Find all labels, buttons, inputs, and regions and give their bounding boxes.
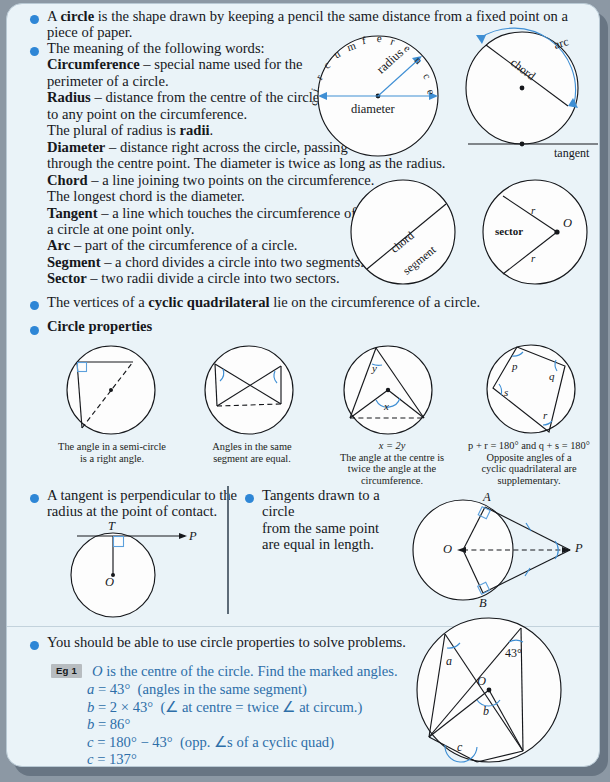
label-B: B <box>479 596 487 611</box>
reason: (angles in the same segment) <box>138 681 307 697</box>
paragraph-tangents-equal: Tangents drawn to a circle from the same… <box>262 487 412 553</box>
caption-line: circumference. <box>361 475 423 486</box>
label-P: P <box>189 529 197 544</box>
label-sector: sector <box>495 225 523 237</box>
text-fragment: – a chord divides a circle into two segm… <box>101 254 364 270</box>
label-O: O <box>443 542 452 557</box>
label-r: r <box>531 204 535 216</box>
text-fragment: radius at the point of contact. <box>47 503 217 519</box>
label-s: s <box>504 386 508 398</box>
diagram-angles-same-segment <box>193 344 305 436</box>
solution-line: c = 137° <box>87 751 431 767</box>
bullet-point-6 <box>245 494 254 503</box>
bullet-point-1 <box>30 15 39 24</box>
label-O: O <box>105 575 114 590</box>
term-diameter: Diameter <box>47 139 105 155</box>
example-badge: Eg 1 <box>51 664 82 678</box>
solution-line: c = 180° − 43° (opp. ∠s of a cyclic quad… <box>87 734 431 751</box>
section-divider <box>227 486 229 614</box>
text-fragment: from the same point <box>262 520 379 536</box>
term-tangent: Tangent <box>47 205 98 221</box>
caption-line: Angles in the same <box>212 441 291 452</box>
example-prompt: is the centre of the circle. Find the ma… <box>103 663 398 679</box>
label-O: O <box>92 663 103 679</box>
bullet-point-3 <box>30 301 39 310</box>
term-circle: circle <box>60 8 94 24</box>
term-chord: Chord <box>47 172 88 188</box>
text-fragment: to any point on the circumference. <box>47 106 247 122</box>
label-y: y <box>372 362 377 374</box>
label-q: q <box>549 370 555 382</box>
reason: (∠ at centre = twice ∠ at circum.) <box>160 699 362 715</box>
caption-line: is a right angle. <box>80 453 144 464</box>
diagram-chord-arc-tangent: arc chord tangent <box>462 18 600 170</box>
text-fragment: . <box>210 122 214 138</box>
caption-line: Opposite angles of a <box>486 452 571 463</box>
equation: = 2 × 43° <box>94 699 153 715</box>
text-fragment: The plural of radius is <box>47 122 180 138</box>
term-radius: Radius <box>47 89 91 105</box>
diagram-angle-at-centre: y x <box>332 344 444 436</box>
text-fragment: a circle at one point only. <box>47 221 194 237</box>
equation: = 137° <box>93 751 136 767</box>
term-segment: Segment <box>47 254 101 270</box>
text-fragment: piece of paper. <box>47 24 133 40</box>
label-A: A <box>483 490 491 505</box>
label-a: a <box>446 654 452 669</box>
text-fragment: A <box>47 8 60 24</box>
label-x: x <box>384 400 389 412</box>
equation: = 86° <box>94 716 130 732</box>
diagram-circumference-radius-diameter: diameter radius c i r c u m f e r e n c … <box>296 18 461 166</box>
solution-line: b = 86° <box>87 716 431 733</box>
label-O: O <box>563 216 572 231</box>
text-fragment: – a line which touches the circumference… <box>98 205 357 221</box>
paragraph-use-properties: You should be able to use circle propert… <box>47 634 447 650</box>
formula-x-equals-2y: x = 2y <box>379 440 406 451</box>
text-fragment: perimeter of a circle. <box>47 73 169 89</box>
equation: = 43° <box>94 681 130 697</box>
text-fragment: are equal in length. <box>262 536 374 552</box>
diagram-worked-example: a 43° O b c <box>405 612 580 767</box>
caption-line: twice the angle at the <box>348 463 436 474</box>
label-O: O <box>477 674 486 689</box>
label-43-degrees: 43° <box>505 646 522 661</box>
diagram-angle-in-semicircle <box>55 344 167 436</box>
term-radii: radii <box>180 122 210 138</box>
example-solution-lines: a = 43° (angles in the same segment) b =… <box>87 681 431 767</box>
text-fragment: Tangents drawn to a circle <box>262 487 380 519</box>
lesson-panel: A circle is the shape drawn by keeping a… <box>6 3 600 767</box>
caption-cyclic-quadrilateral: p + r = 180° and q + s = 180° Opposite a… <box>439 440 600 486</box>
heading-circle-properties: Circle properties <box>47 318 152 334</box>
caption-line: The angle in a semi-circle <box>58 441 166 452</box>
label-P: P <box>575 541 583 556</box>
worked-example: Eg 1 O is the centre of the circle. Find… <box>51 662 431 767</box>
label-b: b <box>483 704 489 719</box>
bullet-point-5 <box>30 494 39 503</box>
diagram-chord-segment: chord segment <box>347 174 469 292</box>
caption-line: supplementary. <box>497 475 560 486</box>
paragraph-tangent-perpendicular: A tangent is perpendicular to the radius… <box>47 487 257 520</box>
text-fragment: The longest chord is the diameter. <box>47 188 245 204</box>
diagram-two-tangents: A B O P <box>405 492 595 614</box>
label-T: T <box>108 519 115 534</box>
term-circumference: Circumference <box>47 56 140 72</box>
text-fragment: – special name used for the <box>140 56 303 72</box>
caption-line: cyclic quadrilateral are <box>481 463 576 474</box>
caption-line: The angle at the centre is <box>340 452 444 463</box>
caption-line: segment are equal. <box>213 453 291 464</box>
term-sector: Sector <box>47 270 87 286</box>
text-fragment: – distance from the centre of the circle <box>91 89 320 105</box>
vocab-intro: The meaning of the following words: <box>47 40 265 56</box>
label-r: r <box>543 409 547 421</box>
reason: (opp. ∠s of a cyclic quad) <box>180 734 334 750</box>
label-tangent: tangent <box>554 146 589 161</box>
text-fragment: – two radii divide a circle into two sec… <box>87 270 340 286</box>
label-r: r <box>531 252 535 264</box>
term-cyclic-quadrilateral: cyclic quadrilateral <box>148 294 269 310</box>
diagram-tangent-perpendicular: T P O <box>65 520 205 620</box>
diagram-sector: O sector r r <box>477 174 597 292</box>
equation: = 180° − 43° <box>93 734 172 750</box>
paragraph-cyclic-quadrilateral: The vertices of a cyclic quadrilateral l… <box>47 294 599 310</box>
label-diameter: diameter <box>351 102 395 117</box>
term-arc: Arc <box>47 237 70 253</box>
